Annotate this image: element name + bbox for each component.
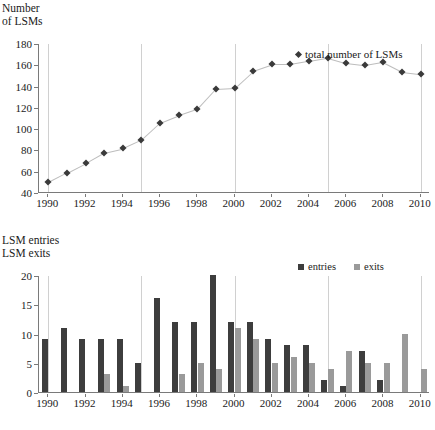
bottom-chart-y-tick-label: 5 (2, 358, 32, 370)
bottom-chart-x-tick-label: 1996 (148, 397, 170, 409)
bottom-chart-y-tick-mark (34, 305, 38, 306)
bottom-chart-x-tick-label: 2004 (297, 397, 319, 409)
top-chart-data-point (343, 60, 350, 67)
top-chart-line-segment (197, 89, 216, 110)
top-chart-data-point (119, 145, 126, 152)
bottom-chart-bar (172, 322, 178, 392)
top-chart-gridline (235, 44, 236, 192)
top-chart-x-tick-mark (85, 194, 86, 197)
bottom-chart-bar (154, 298, 160, 392)
bottom-chart-legend-label-entries: entries (308, 261, 336, 272)
top-chart-x-tick-mark (382, 194, 383, 197)
top-chart-x-tick-label: 2000 (223, 197, 245, 209)
top-chart-gridline (48, 44, 49, 192)
bottom-chart-bar (346, 351, 352, 392)
top-chart-gridline (328, 44, 329, 192)
top-chart-data-point (399, 68, 406, 75)
top-chart-x-tick-mark (420, 194, 421, 197)
top-chart-data-point (361, 62, 368, 69)
bottom-chart-gridline (141, 276, 142, 392)
top-chart-x-tick-mark (196, 194, 197, 197)
bottom-chart-x-tick-label: 2002 (260, 397, 282, 409)
top-chart-x-tick-mark (234, 194, 235, 197)
bottom-chart-x-tick-label: 1994 (111, 397, 133, 409)
bottom-chart-legend-label-exits: exits (364, 261, 384, 272)
bottom-chart-bar (359, 351, 365, 392)
bottom-chart-bar (61, 328, 67, 392)
top-chart-data-point (250, 67, 257, 74)
top-chart-x-tick-mark (308, 194, 309, 197)
top-chart-plot-area (38, 44, 429, 193)
top-chart-x-tick-label: 2008 (371, 197, 393, 209)
bottom-chart-bar (135, 363, 141, 392)
top-chart-y-tick-label: 180 (2, 38, 32, 50)
bottom-chart-bar (291, 357, 297, 392)
top-chart-x-tick-label: 2006 (334, 197, 356, 209)
bottom-chart-bar (198, 363, 204, 392)
bottom-chart-bar (365, 363, 371, 392)
bottom-chart-y-tick-label: 10 (2, 329, 32, 341)
top-chart-y-tick-mark (34, 108, 38, 109)
top-chart-y-tick-mark (34, 172, 38, 173)
top-chart-data-point (268, 61, 275, 68)
bottom-chart-bar (210, 275, 216, 392)
top-chart-x-tick-mark (47, 194, 48, 197)
exits-swatch-icon (354, 264, 360, 270)
bottom-chart-bar (79, 339, 85, 392)
top-chart-y-tick-mark (34, 129, 38, 130)
bottom-chart-bar (284, 345, 290, 392)
bottom-chart-x-tick-mark (122, 394, 123, 397)
bottom-chart-y-tick-mark (34, 364, 38, 365)
top-chart-y-tick-mark (34, 87, 38, 88)
top-chart-y-tick-mark (34, 65, 38, 66)
bottom-chart-x-tick-label: 1990 (36, 397, 58, 409)
bottom-chart-bar (328, 369, 334, 392)
bottom-chart-bar (272, 363, 278, 392)
bottom-chart-bar (98, 339, 104, 392)
top-chart-y-tick-label: 160 (2, 59, 32, 71)
top-chart-y-tick-mark (34, 193, 38, 194)
bottom-chart-x-tick-mark (345, 394, 346, 397)
top-chart-gridline (421, 44, 422, 192)
bottom-chart-x-tick-label: 1992 (74, 397, 96, 409)
bottom-chart-bar (247, 322, 253, 392)
bottom-chart-bar (421, 369, 427, 392)
top-chart-x-tick-mark (345, 194, 346, 197)
top-chart-legend: total number of LSMs (296, 48, 402, 60)
bottom-chart-bar (309, 363, 315, 392)
top-chart-y-tick-label: 120 (2, 102, 32, 114)
top-chart-x-tick-label: 2002 (260, 197, 282, 209)
bottom-chart-x-tick-mark (159, 394, 160, 397)
diamond-marker-icon (295, 50, 302, 57)
bottom-chart-bar (402, 334, 408, 393)
top-chart-gridline (141, 44, 142, 192)
bottom-chart-x-tick-mark (308, 394, 309, 397)
top-chart-y-tick-label: 100 (2, 123, 32, 135)
bottom-chart-x-tick-mark (234, 394, 235, 397)
bottom-chart-y-tick-mark (34, 335, 38, 336)
bottom-chart-x-tick-label: 1998 (185, 397, 207, 409)
top-chart-x-tick-label: 1994 (111, 197, 133, 209)
top-chart-x-tick-label: 1998 (185, 197, 207, 209)
bottom-chart-x-tick-mark (85, 394, 86, 397)
bottom-chart-x-tick-mark (196, 394, 197, 397)
bottom-chart-bar (191, 322, 197, 392)
bottom-chart-x-tick-label: 2010 (409, 397, 431, 409)
bottom-chart-bar (377, 380, 383, 392)
top-chart-data-point (287, 61, 294, 68)
bottom-chart-bar (321, 380, 327, 392)
bottom-chart-y-tick-label: 0 (2, 387, 32, 399)
top-chart-y-tick-mark (34, 150, 38, 151)
top-chart-line-segment (141, 123, 160, 141)
bottom-chart-y-axis-title: LSM entries LSM exits (2, 234, 59, 259)
top-chart-y-tick-mark (34, 44, 38, 45)
bottom-chart-bar (216, 369, 222, 392)
bottom-chart-x-tick-label: 2006 (334, 397, 356, 409)
top-chart-data-point (175, 112, 182, 119)
bottom-chart-y-tick-mark (34, 393, 38, 394)
top-chart-y-tick-label: 80 (2, 144, 32, 156)
top-chart-x-tick-label: 1990 (36, 197, 58, 209)
bottom-chart-y-tick-label: 15 (2, 299, 32, 311)
bottom-chart-panel: entries exits 05101520199019921994199619… (0, 264, 435, 430)
bottom-chart-legend: entries exits (298, 261, 384, 272)
